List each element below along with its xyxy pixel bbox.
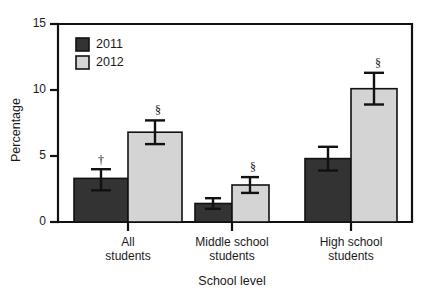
legend-swatch-2012 <box>76 56 89 69</box>
x-label-middle-school-line2: students <box>209 249 254 263</box>
x-label-all-students: All students <box>105 235 150 263</box>
annotation-2012-high-school: § <box>375 56 381 70</box>
x-label-middle-school: Middle school students <box>195 235 268 263</box>
annotation-2012-middle-school: § <box>250 160 256 174</box>
x-label-all-students-line1: All <box>121 235 134 249</box>
y-tick-label-0: 0 <box>39 214 46 228</box>
chart-figure: 0 5 10 15 Percentage † § <box>0 0 432 293</box>
legend-swatch-2011 <box>76 38 89 51</box>
bar-2012-all-students <box>128 132 182 222</box>
x-label-high-school-line1: High school <box>320 235 383 249</box>
y-axis-title: Percentage <box>9 98 23 162</box>
legend-label-2011: 2011 <box>96 37 123 51</box>
y-tick-label-5: 5 <box>39 148 46 162</box>
legend-label-2012: 2012 <box>96 55 124 69</box>
bar-2012-high-school <box>351 89 397 222</box>
y-tick-label-10: 10 <box>33 82 47 96</box>
x-label-middle-school-line1: Middle school <box>195 235 268 249</box>
y-tick-label-15: 15 <box>33 16 47 30</box>
x-label-high-school-line2: students <box>328 249 373 263</box>
bar-chart-svg: 0 5 10 15 Percentage † § <box>0 0 432 293</box>
x-axis-title: School level <box>198 274 265 288</box>
annotation-2011-all-students: † <box>98 153 104 167</box>
annotation-2012-all-students: § <box>155 103 161 117</box>
chart-legend: 2011 2012 <box>76 37 124 69</box>
x-label-all-students-line2: students <box>105 249 150 263</box>
x-label-high-school: High school students <box>320 235 383 263</box>
